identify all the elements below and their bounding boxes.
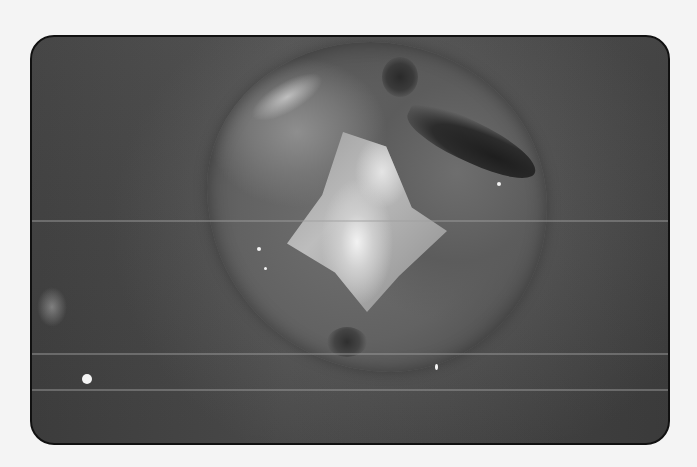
photo-frame xyxy=(30,35,670,445)
glint xyxy=(435,364,438,370)
scanline xyxy=(32,389,668,391)
left-reflection xyxy=(37,287,67,327)
glint xyxy=(257,247,261,251)
scanline xyxy=(32,353,668,355)
glint xyxy=(264,267,267,270)
glint xyxy=(497,182,501,186)
dark-stain xyxy=(382,57,418,97)
scanline xyxy=(32,220,668,222)
glint xyxy=(82,374,92,384)
